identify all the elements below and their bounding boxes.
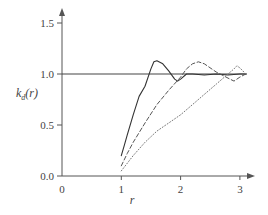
y-axis-arrow-icon [59, 8, 65, 16]
y-axis-label: kd(r) [16, 86, 38, 102]
plot-area: 01230.00.51.01.5rkd(r) [16, 8, 255, 207]
y-tick-label: 1.0 [40, 68, 54, 80]
x-axis-arrow-icon [247, 173, 255, 179]
x-axis-label: r [130, 193, 135, 207]
y-tick-label: 1.5 [40, 17, 54, 29]
chart: 01230.00.51.01.5rkd(r) [0, 0, 268, 215]
x-tick-label: 2 [178, 183, 184, 195]
y-tick-label: 0.0 [40, 170, 54, 182]
y-tick-label: 0.5 [40, 119, 54, 131]
series-dashed-line [121, 62, 246, 166]
x-tick-label: 0 [59, 183, 65, 195]
x-tick-label: 3 [237, 183, 243, 195]
series-dotted-line [121, 66, 246, 171]
x-tick-label: 1 [119, 183, 125, 195]
